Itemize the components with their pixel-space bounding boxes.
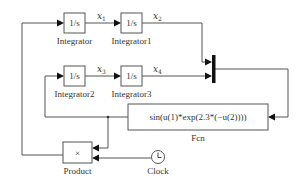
arrow-fcn-in [268, 114, 275, 121]
arrow-integrator-in [57, 20, 64, 27]
arrow-integrator2-in [57, 73, 64, 80]
product-content: × [75, 148, 80, 158]
integrator1-block[interactable]: 1/s Integrator1 [112, 13, 152, 46]
clock-label: Clock [147, 166, 169, 176]
integrator2-content: 1/s [69, 71, 80, 81]
wire-x2 [142, 23, 206, 62]
integrator2-block[interactable]: 1/s Integrator2 [55, 66, 95, 99]
fcn-expression: sin(u(1)*exp(2.3*(−u(2)))) [150, 112, 247, 122]
product-label: Product [64, 166, 92, 176]
signal-x2: x2 [153, 11, 162, 22]
integrator1-label: Integrator1 [112, 36, 152, 46]
integrator3-content: 1/s [126, 71, 137, 81]
fcn-block[interactable]: sin(u(1)*exp(2.3*(−u(2)))) Fcn [128, 104, 268, 143]
arrow-mux-in1 [205, 59, 212, 66]
integrator-content: 1/s [69, 18, 80, 28]
arrow-integrator3-in [114, 73, 121, 80]
integrator1-content: 1/s [126, 18, 137, 28]
integrator3-label: Integrator3 [112, 89, 152, 99]
fcn-label: Fcn [191, 133, 205, 143]
arrow-mux-in2 [205, 73, 212, 80]
arrow-product-in2 [92, 155, 99, 162]
block-diagram: 1/s Integrator 1/s Integrator1 1/s Integ… [0, 0, 307, 188]
wire-fcn-to-product [98, 117, 108, 148]
integrator-block[interactable]: 1/s Integrator [57, 13, 92, 46]
integrator2-label: Integrator2 [55, 89, 95, 99]
signal-x3: x3 [97, 64, 106, 75]
branch-point [107, 116, 110, 119]
signal-x4: x4 [153, 64, 162, 75]
integrator-label: Integrator [57, 36, 92, 46]
product-block[interactable]: × Product [63, 142, 92, 176]
integrator3-block[interactable]: 1/s Integrator3 [112, 66, 152, 99]
arrow-product-in1 [92, 145, 99, 152]
clock-block[interactable]: Clock [147, 151, 169, 177]
arrow-integrator1-in [114, 20, 121, 27]
signal-x1: x1 [97, 11, 106, 22]
mux-block[interactable] [212, 55, 216, 83]
